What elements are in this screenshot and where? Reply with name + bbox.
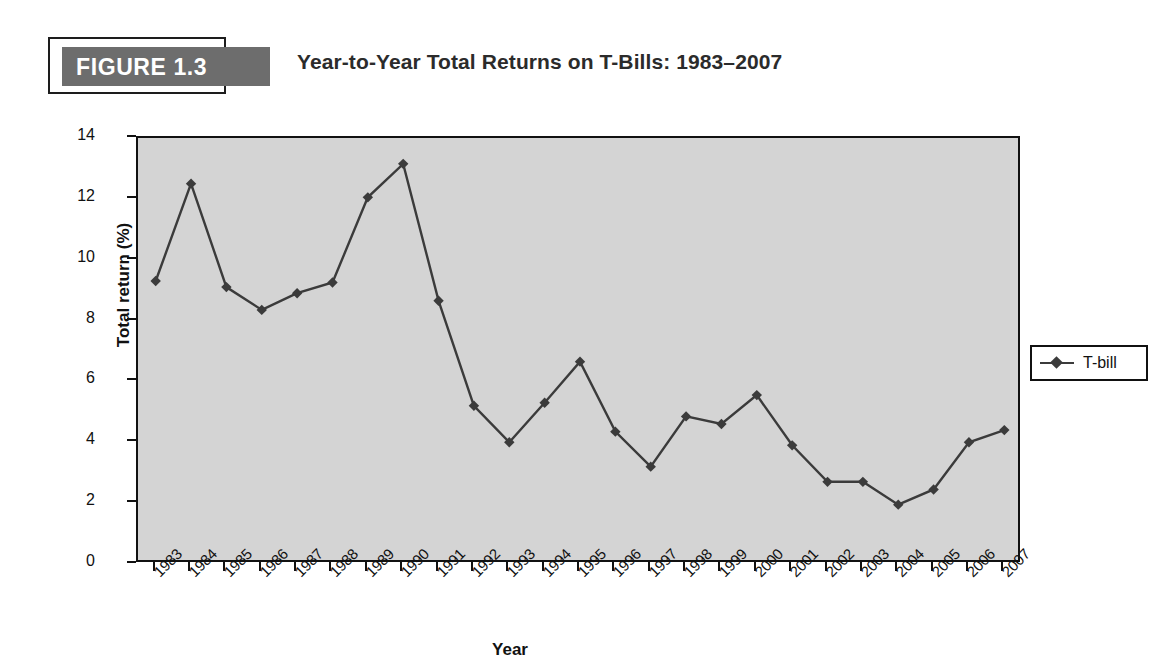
y-tick-mark — [127, 196, 136, 198]
y-tick-label: 10 — [55, 248, 95, 266]
plot-area — [136, 136, 1020, 562]
y-tick-mark — [127, 561, 136, 563]
y-tick-mark — [127, 318, 136, 320]
y-tick-label: 4 — [55, 430, 95, 448]
y-tick-mark — [127, 135, 136, 137]
y-tick-label: 6 — [55, 369, 95, 387]
y-tick-label: 2 — [55, 491, 95, 509]
legend[interactable]: T-bill — [1030, 345, 1148, 381]
legend-diamond-icon — [1040, 357, 1074, 369]
data-point-marker — [327, 277, 337, 287]
y-tick-label: 12 — [55, 187, 95, 205]
y-tick-mark — [127, 257, 136, 259]
legend-label: T-bill — [1083, 354, 1117, 372]
legend-entry-t-bill[interactable]: T-bill — [1032, 347, 1146, 379]
y-tick-mark — [127, 439, 136, 441]
t-bill-markers — [150, 159, 1009, 510]
data-point-marker — [186, 178, 196, 188]
y-tick-mark — [127, 500, 136, 502]
chart-container: Total return (%) 02468101214 19831984198… — [0, 0, 1155, 658]
y-tick-label: 8 — [55, 309, 95, 327]
y-tick-label: 0 — [55, 552, 95, 570]
y-tick-label: 14 — [55, 126, 95, 144]
x-axis-title: Year — [0, 640, 1020, 658]
y-axis-title: Total return (%) — [114, 155, 134, 415]
data-point-marker — [433, 296, 443, 306]
y-tick-mark — [127, 378, 136, 380]
data-point-marker — [292, 288, 302, 298]
data-point-marker — [150, 276, 160, 286]
data-point-marker — [999, 425, 1009, 435]
t-bill-line — [156, 164, 1005, 505]
series-plot — [138, 138, 1022, 564]
